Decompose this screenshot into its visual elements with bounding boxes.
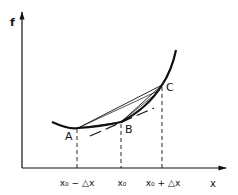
- tick-label-x0-minus-dx: x₀ − △x: [60, 178, 95, 188]
- derivative-diagram: f x A B C x₀ − △x x₀ x₀ + △x: [0, 0, 238, 195]
- point-label-B: B: [125, 123, 133, 136]
- tick-label-x0: x₀: [118, 178, 127, 188]
- x-axis-label: x: [210, 178, 216, 189]
- point-label-A: A: [65, 130, 73, 143]
- tangent-at-B: [90, 108, 154, 136]
- y-axis-label: f: [10, 16, 15, 29]
- point-label-C: C: [166, 81, 174, 94]
- secant-BC: [121, 85, 162, 122]
- tick-label-x0-plus-dx: x₀ + △x: [146, 178, 181, 188]
